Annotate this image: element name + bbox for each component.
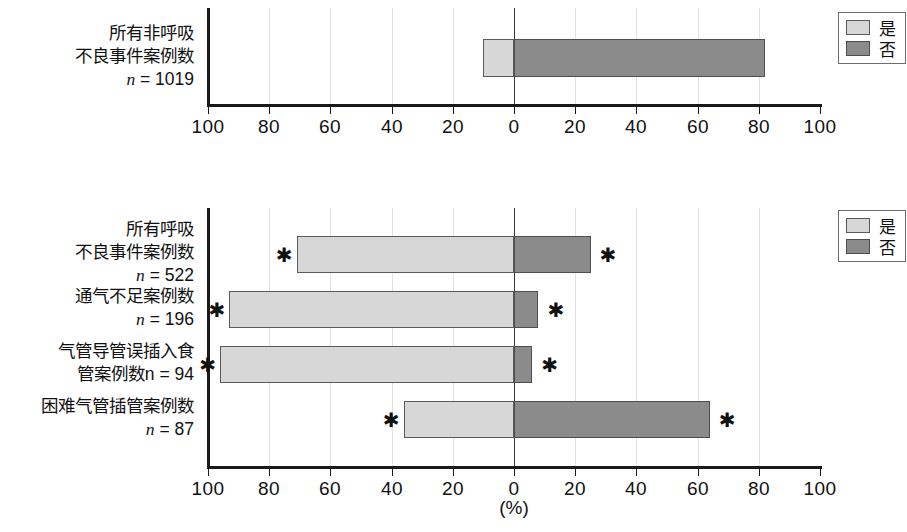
bar-segment-no [514,346,532,383]
x-axis-tick [392,107,393,114]
gridline [453,8,454,104]
x-axis-tick-label: 100 [178,478,238,500]
gridline [269,8,270,104]
bar-segment-yes [404,401,514,438]
gridline [330,8,331,104]
x-axis-tick-label: 20 [545,116,605,138]
x-axis-tick-label: 80 [239,478,299,500]
chart-legend: 是否 [838,210,906,262]
legend-swatch-yes [846,20,870,35]
category-label: 通气不足案例数n = 196 [0,285,194,331]
category-label-line: 气管导管误插入食 [0,340,194,363]
x-axis-tick [392,469,393,476]
x-axis-tick [453,469,454,476]
x-axis-tick [330,469,331,476]
x-axis-tick [453,107,454,114]
legend-swatch-no [846,41,870,56]
x-axis-tick-label: 80 [729,478,789,500]
significance-star-left: ✱ [208,300,225,320]
x-axis-tick [759,107,760,114]
x-axis-tick-label: 40 [606,478,666,500]
bar-segment-no [514,236,591,273]
significance-star-left: ✱ [199,355,216,375]
category-label-line: 不良事件案例数 [0,45,194,68]
legend-row: 是 [846,18,896,37]
bar-segment-yes [220,346,514,383]
x-axis-tick [820,469,821,476]
x-axis-tick [208,107,209,114]
significance-star-right: ✱ [547,300,564,320]
x-axis-tick-label: 60 [300,116,360,138]
bar-segment-yes [297,236,514,273]
category-label-line: 不良事件案例数 [0,241,194,264]
legend-row: 是 [846,216,896,235]
category-label-line: 管案例数n = 94 [0,363,194,386]
x-axis-tick [269,469,270,476]
category-label-line: 困难气管插管案例数 [0,395,194,418]
category-label-line: 所有非呼吸 [0,22,194,45]
gridline [392,8,393,104]
x-axis-tick [636,469,637,476]
category-sample-size: n = 1019 [0,68,194,91]
x-axis-tick [759,469,760,476]
x-axis-tick-label: 80 [239,116,299,138]
x-axis-tick [208,469,209,476]
x-axis-tick [330,107,331,114]
significance-star-left: ✱ [383,410,400,430]
x-axis-tick-label: 60 [668,478,728,500]
category-label-line: 通气不足案例数 [0,285,194,308]
category-label: 所有非呼吸不良事件案例数n = 1019 [0,22,194,91]
bar-segment-no [514,401,710,438]
x-axis-tick-label: 20 [545,478,605,500]
category-label-line: 所有呼吸 [0,218,194,241]
x-axis-tick-label: 20 [423,116,483,138]
x-axis-tick-label: 0 [484,116,544,138]
significance-star-left: ✱ [276,245,293,265]
x-axis-tick [636,107,637,114]
x-axis-tick [575,107,576,114]
significance-star-right: ✱ [719,410,736,430]
x-axis-tick-label: 40 [362,478,422,500]
significance-star-right: ✱ [541,355,558,375]
x-axis-tick [514,107,515,114]
legend-label-no: 否 [879,234,896,259]
x-axis-tick-label: 40 [362,116,422,138]
x-axis-unit-label: (%) [474,497,554,519]
chart-legend: 是否 [838,12,906,64]
bar-segment-yes [229,291,514,328]
y-axis-line [207,208,210,469]
x-axis-tick [820,107,821,114]
x-axis-tick-label: 60 [668,116,728,138]
legend-swatch-no [846,239,870,254]
x-axis-tick-label: 60 [300,478,360,500]
category-label: 困难气管插管案例数n = 87 [0,395,194,441]
bar-segment-no [514,291,538,328]
gridline [759,208,760,466]
x-axis-tick-label: 80 [729,116,789,138]
x-axis-tick-label: 100 [790,478,850,500]
x-axis-tick [514,469,515,476]
category-sample-size: n = 196 [0,308,194,331]
bar-segment-no [514,39,765,77]
legend-label-no: 否 [879,36,896,61]
legend-row: 否 [846,237,896,256]
x-axis-tick-label: 100 [178,116,238,138]
bar-segment-yes [483,39,514,77]
category-label: 气管导管误插入食管案例数n = 94 [0,340,194,386]
x-axis-tick [269,107,270,114]
category-sample-size: n = 87 [0,418,194,441]
x-axis-tick [575,469,576,476]
category-label: 所有呼吸不良事件案例数n = 522 [0,218,194,287]
x-axis-tick [698,107,699,114]
y-axis-line [207,8,210,107]
x-axis-tick [698,469,699,476]
legend-row: 否 [846,39,896,58]
x-axis-tick-label: 100 [790,116,850,138]
legend-swatch-yes [846,218,870,233]
significance-star-right: ✱ [600,245,617,265]
gridline [269,208,270,466]
x-axis-tick-label: 40 [606,116,666,138]
